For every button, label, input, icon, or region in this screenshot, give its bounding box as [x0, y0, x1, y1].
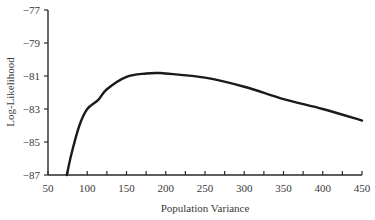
y-tick-label: −83 [23, 103, 41, 115]
y-tick-label: −77 [23, 4, 41, 16]
y-tick-label: −81 [23, 70, 40, 82]
log-likelihood-chart: −87−85−83−81−79−77 501001502002503003504… [0, 0, 375, 220]
x-tick-label: 250 [197, 182, 214, 194]
x-tick-label: 50 [43, 182, 55, 194]
x-tick-label: 450 [354, 182, 371, 194]
y-tick-label: −85 [23, 136, 41, 148]
y-tick-label: −87 [23, 169, 41, 181]
x-tick-label: 300 [236, 182, 253, 194]
y-axis: −87−85−83−81−79−77 [23, 4, 48, 181]
x-tick-label: 400 [315, 182, 332, 194]
likelihood-curve [67, 73, 362, 175]
x-tick-label: 350 [275, 182, 292, 194]
x-tick-label: 200 [158, 182, 175, 194]
x-axis-title: Population Variance [161, 202, 250, 214]
x-tick-label: 150 [118, 182, 135, 194]
x-tick-label: 100 [79, 182, 96, 194]
y-tick-label: −79 [23, 37, 41, 49]
x-axis: 50100150200250300350400450 [43, 171, 371, 194]
y-axis-title: Log-Likelihood [4, 57, 16, 127]
